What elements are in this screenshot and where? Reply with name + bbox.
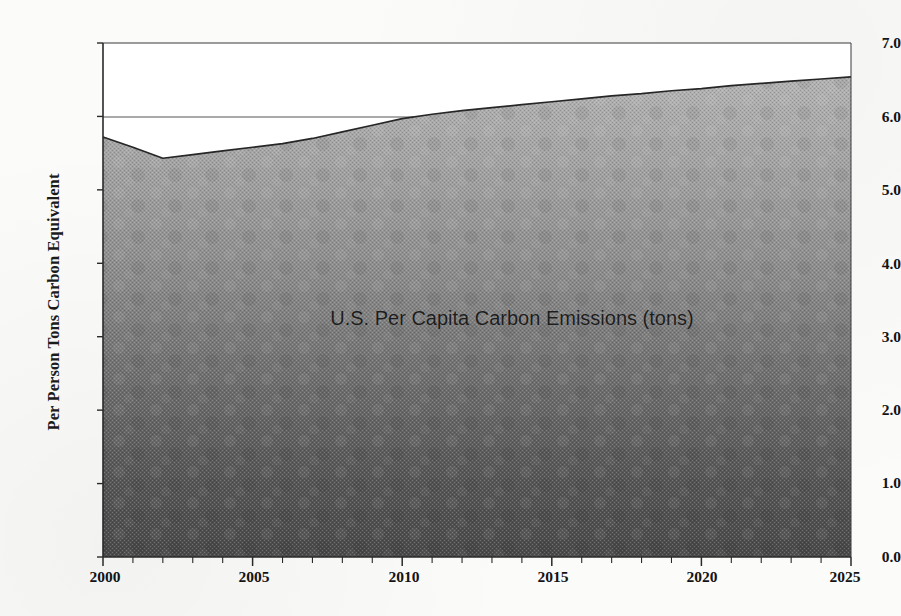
- y-axis-ticks: [97, 43, 103, 557]
- x-axis-ticks: [103, 557, 851, 566]
- plot-area: [97, 43, 851, 566]
- figure-page: Per Person Tons Carbon Equivalent 0.0 1.…: [0, 0, 901, 616]
- area-chart-figure: Per Person Tons Carbon Equivalent 0.0 1.…: [0, 0, 901, 616]
- chart-title-annotation: U.S. Per Capita Carbon Emissions (tons): [330, 307, 693, 330]
